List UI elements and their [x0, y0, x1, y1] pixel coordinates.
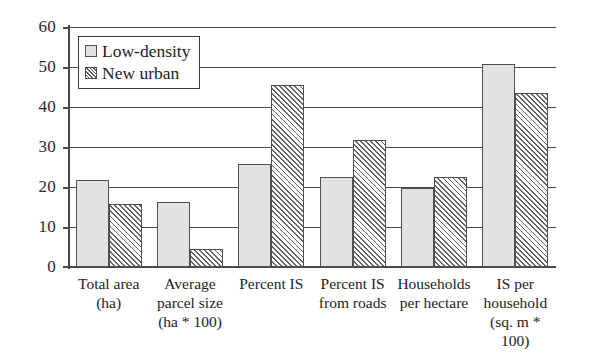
y-tick-40: 40	[39, 98, 56, 115]
legend-item-low-density: Low-density	[85, 40, 190, 62]
bar-new-urban-1	[190, 249, 223, 267]
bar-new-urban-4	[434, 177, 467, 267]
y-tick-50: 50	[39, 58, 56, 75]
bar-low-density-3	[320, 177, 353, 267]
x-label-line-2: household	[476, 293, 555, 312]
x-label-line-1: Total area	[78, 275, 139, 292]
x-label-line-2: parcel size	[150, 293, 229, 312]
x-label-percent-is: Percent IS	[231, 274, 312, 350]
bar-group-percent-is-from-roads	[312, 27, 393, 267]
y-tick-20: 20	[39, 178, 56, 195]
legend-swatch-new-urban-icon	[85, 67, 97, 79]
x-axis-labels: Total area (ha) Average parcel size (ha …	[68, 274, 556, 350]
bar-low-density-4	[401, 188, 434, 267]
x-label-total-area: Total area (ha)	[68, 274, 149, 350]
bar-low-density-1	[157, 202, 190, 267]
bar-group-households-per-hectare	[393, 27, 474, 267]
y-tick-30: 30	[39, 138, 56, 155]
x-label-line-2: (ha)	[69, 293, 148, 312]
x-label-line-2: per hectare	[394, 293, 473, 312]
bar-low-density-2	[238, 164, 271, 267]
x-label-line-1: Average	[164, 275, 215, 292]
x-label-is-per-household: IS per household (sq. m * 100)	[475, 274, 556, 350]
legend-label-low-density: Low-density	[102, 42, 190, 60]
legend-swatch-low-density-icon	[85, 45, 97, 57]
chart-legend: Low-density New urban	[78, 36, 200, 89]
bar-new-urban-2	[271, 85, 304, 267]
x-label-line-2: from roads	[313, 293, 392, 312]
y-tick-10: 10	[39, 218, 56, 235]
x-label-average-parcel-size: Average parcel size (ha * 100)	[149, 274, 230, 350]
x-label-line-1: IS per	[497, 275, 534, 292]
legend-item-new-urban: New urban	[85, 62, 190, 84]
x-label-line-3: (sq. m * 100)	[476, 312, 555, 350]
y-axis-labels: 60 50 40 30 20 10 0	[22, 0, 56, 356]
bar-group-is-per-household	[475, 27, 556, 267]
y-tick-60: 60	[39, 18, 56, 35]
x-label-line-3: (ha * 100)	[150, 312, 229, 331]
x-label-percent-is-from-roads: Percent IS from roads	[312, 274, 393, 350]
bar-group-percent-is	[231, 27, 312, 267]
x-label-line-1: Percent IS	[239, 275, 303, 292]
bar-new-urban-5	[515, 93, 548, 267]
legend-label-new-urban: New urban	[102, 64, 179, 82]
bar-new-urban-3	[353, 140, 386, 267]
bar-low-density-0	[76, 180, 109, 267]
bar-new-urban-0	[109, 204, 142, 267]
x-label-households-per-hectare: Households per hectare	[393, 274, 474, 350]
y-tick-0: 0	[47, 258, 56, 275]
bar-chart: 60 50 40 30 20 10 0	[0, 0, 602, 356]
bar-low-density-5	[482, 64, 515, 267]
x-label-line-1: Households	[397, 275, 470, 292]
x-label-line-1: Percent IS	[321, 275, 385, 292]
